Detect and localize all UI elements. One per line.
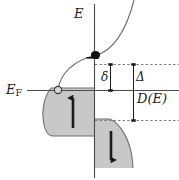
- figure-canvas: [0, 0, 179, 180]
- hole-open-circle-marker: [54, 86, 61, 93]
- fermi-level-label: EF: [6, 83, 22, 97]
- fermi-level-label-main: E: [6, 82, 16, 97]
- excitation-trajectory-curve: [58, 0, 134, 90]
- spin-down-dos-band: [94, 119, 133, 168]
- dos-spin-splitting-figure: E EF δ Δ D(E): [0, 0, 179, 180]
- fermi-level-label-subscript: F: [16, 87, 22, 98]
- dos-axis-label: D(E): [137, 92, 167, 105]
- delta-label: δ: [101, 71, 108, 83]
- big-delta-label: Δ: [136, 71, 145, 83]
- energy-axis-label: E: [74, 7, 84, 20]
- spin-up-dos-band: [43, 88, 94, 136]
